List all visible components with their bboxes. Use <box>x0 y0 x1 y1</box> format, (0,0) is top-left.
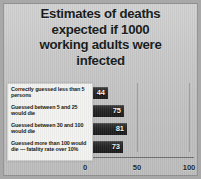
slide-canvas: Estimates of deaths expected if 1000 wor… <box>0 0 201 179</box>
title-line-2: expected if 1000 <box>9 22 192 38</box>
bar-value-label: 73 <box>112 141 120 153</box>
category-label-1: Correctly guessed less than 5 persons <box>11 86 90 99</box>
category-label-line: persons <box>11 92 90 98</box>
title-line-4: infected <box>9 53 192 69</box>
category-label-line: would die <box>11 110 90 116</box>
category-label-4: Guessed more than 100 would die — fatali… <box>11 140 90 153</box>
bar-value-label: 44 <box>97 87 105 99</box>
title-line-1: Estimates of deaths <box>9 6 192 22</box>
category-label-line: die — fatality rate over 10% <box>11 146 90 152</box>
category-label-line: would die <box>11 128 90 134</box>
x-tick-100: 100 <box>183 163 196 172</box>
category-label-panel: Correctly guessed less than 5 persons Gu… <box>7 83 93 161</box>
category-label-2: Guessed between 5 and 25 would die <box>11 104 90 117</box>
slide-title: Estimates of deaths expected if 1000 wor… <box>9 6 192 68</box>
category-label-3: Guessed between 30 and 100 would die <box>11 122 90 135</box>
x-tick-50: 50 <box>133 163 141 172</box>
bar-value-label: 75 <box>113 105 121 117</box>
bar-value-label: 81 <box>116 123 124 135</box>
title-line-3: working adults were <box>9 37 192 53</box>
x-tick-0: 0 <box>83 163 87 172</box>
